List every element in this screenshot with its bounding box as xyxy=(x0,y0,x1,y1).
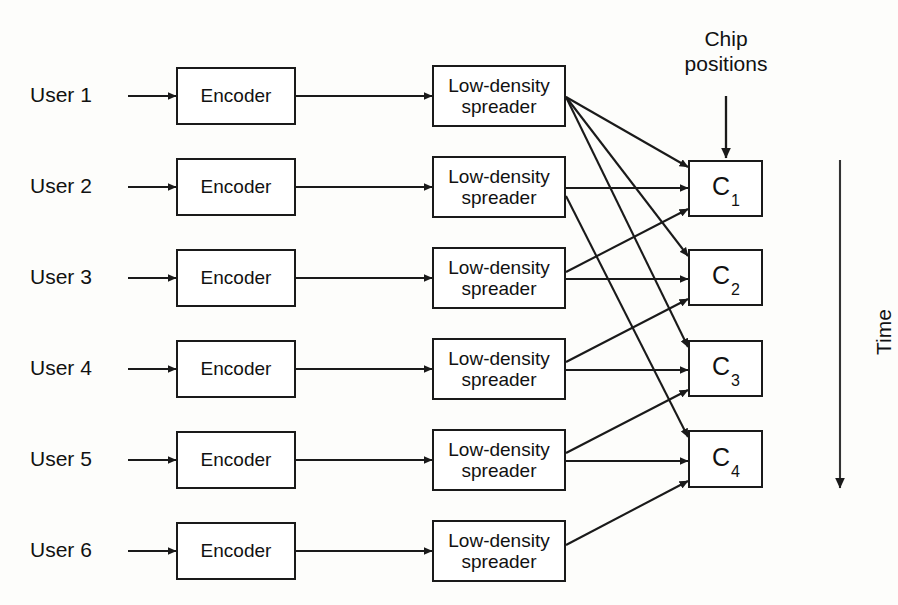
encoder-label-4: Encoder xyxy=(201,358,272,379)
edge-spreader5-chip3 xyxy=(566,390,688,453)
spreader-label-5: Low-density spreader xyxy=(434,439,564,482)
encoder-box-2[interactable]: Encoder xyxy=(176,158,296,216)
spreader-label-2: Low-density spreader xyxy=(434,166,564,209)
encoder-box-1[interactable]: Encoder xyxy=(176,67,296,125)
time-axis-label: Time xyxy=(872,309,896,355)
chip-label-4: C4 xyxy=(712,443,739,476)
encoder-box-5[interactable]: Encoder xyxy=(176,431,296,489)
encoder-label-3: Encoder xyxy=(201,267,272,288)
chip-label-1: C1 xyxy=(712,172,739,205)
chip-box-3[interactable]: C3 xyxy=(688,340,763,397)
edge-spreader3-chip1 xyxy=(566,209,688,272)
user-label-6: User 6 xyxy=(30,538,92,562)
edge-spreader6-chip4 xyxy=(566,481,688,545)
spreader-box-4[interactable]: Low-density spreader xyxy=(432,338,566,400)
chip-label-3: C3 xyxy=(712,352,739,385)
user-label-4: User 4 xyxy=(30,356,92,380)
edge-spreader4-chip2 xyxy=(566,299,688,362)
diagram-canvas: User 1 User 2 User 3 User 4 User 5 User … xyxy=(0,0,898,605)
spreader-label-6: Low-density spreader xyxy=(434,530,564,573)
spreader-label-4: Low-density spreader xyxy=(434,348,564,391)
user-label-3: User 3 xyxy=(30,265,92,289)
user-label-1: User 1 xyxy=(30,83,92,107)
chip-box-1[interactable]: C1 xyxy=(688,160,763,217)
spreader-label-1: Low-density spreader xyxy=(434,75,564,118)
user-label-5: User 5 xyxy=(30,447,92,471)
user-label-2: User 2 xyxy=(30,174,92,198)
encoder-label-1: Encoder xyxy=(201,85,272,106)
spreader-box-2[interactable]: Low-density spreader xyxy=(432,156,566,218)
encoder-label-5: Encoder xyxy=(201,449,272,470)
encoder-box-3[interactable]: Encoder xyxy=(176,249,296,307)
encoder-box-4[interactable]: Encoder xyxy=(176,340,296,398)
edge-spreader1-chip1 xyxy=(566,97,688,167)
chip-positions-caption: Chip positions xyxy=(666,26,786,76)
encoder-label-2: Encoder xyxy=(201,176,272,197)
chip-box-2[interactable]: C2 xyxy=(688,249,763,306)
edge-spreader1-chip2 xyxy=(566,97,688,256)
chip-box-4[interactable]: C4 xyxy=(688,430,763,488)
encoder-label-6: Encoder xyxy=(201,540,272,561)
edge-spreader1-chip3 xyxy=(566,97,688,347)
chip-label-2: C2 xyxy=(712,261,739,294)
spreader-box-1[interactable]: Low-density spreader xyxy=(432,65,566,127)
edge-spreader2-chip4 xyxy=(566,196,688,437)
spreader-box-6[interactable]: Low-density spreader xyxy=(432,520,566,582)
spreader-box-5[interactable]: Low-density spreader xyxy=(432,429,566,491)
spreader-label-3: Low-density spreader xyxy=(434,257,564,300)
encoder-box-6[interactable]: Encoder xyxy=(176,522,296,580)
spreader-box-3[interactable]: Low-density spreader xyxy=(432,247,566,309)
